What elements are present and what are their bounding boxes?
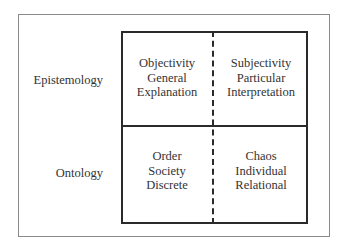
cell-line: Chaos bbox=[214, 149, 308, 164]
cell-top-right: Subjectivity Particular Interpretation bbox=[214, 56, 308, 100]
cell-line: Discrete bbox=[122, 178, 212, 193]
cell-line: Particular bbox=[214, 71, 308, 86]
cell-line: General bbox=[122, 71, 212, 86]
cell-bottom-left: Order Society Discrete bbox=[122, 149, 212, 193]
row-label-ontology: Ontology bbox=[13, 166, 103, 180]
horizontal-divider bbox=[121, 125, 308, 127]
cell-bottom-right: Chaos Individual Relational bbox=[214, 149, 308, 193]
cell-line: Interpretation bbox=[214, 85, 308, 100]
cell-line: Subjectivity bbox=[214, 56, 308, 71]
cell-line: Objectivity bbox=[122, 56, 212, 71]
cell-line: Order bbox=[122, 149, 212, 164]
cell-line: Relational bbox=[214, 178, 308, 193]
cell-line: Society bbox=[122, 164, 212, 179]
row-label-epistemology: Epistemology bbox=[13, 73, 103, 87]
cell-line: Explanation bbox=[122, 85, 212, 100]
cell-line: Individual bbox=[214, 164, 308, 179]
cell-top-left: Objectivity General Explanation bbox=[122, 56, 212, 100]
